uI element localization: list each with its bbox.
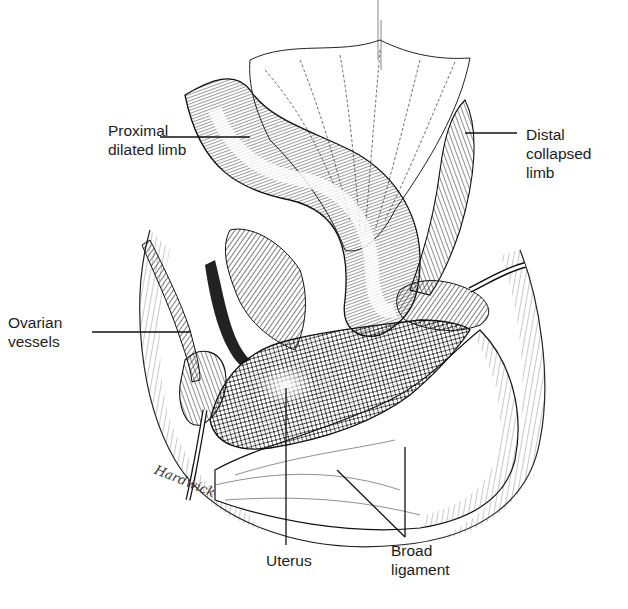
illustration-canvas: Proximal dilated limb Distal collapsed l… [0, 0, 628, 609]
label-line: limb [526, 163, 592, 182]
label-line: dilated limb [108, 140, 186, 159]
label-proximal-dilated-limb: Proximal dilated limb [108, 121, 186, 159]
label-line: vessels [8, 332, 62, 351]
anatomy-drawing [0, 0, 628, 609]
label-line: Proximal [108, 121, 186, 140]
label-distal-collapsed-limb: Distal collapsed limb [526, 125, 592, 182]
label-line: Distal [526, 125, 592, 144]
label-uterus: Uterus [266, 551, 312, 570]
label-broad-ligament: Broad ligament [391, 541, 450, 579]
label-line: collapsed [526, 144, 592, 163]
label-line: ligament [391, 560, 450, 579]
central-bowel [225, 229, 305, 350]
label-line: Uterus [266, 551, 312, 570]
label-ovarian-vessels: Ovarian vessels [8, 313, 62, 351]
label-line: Ovarian [8, 313, 62, 332]
label-line: Broad [391, 541, 450, 560]
